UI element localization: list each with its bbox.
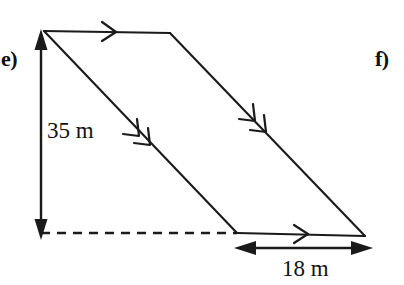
- parallelogram-bottom-edge: [237, 233, 365, 236]
- problem-label-f: f): [375, 48, 389, 70]
- base-dimension-arrow: [234, 241, 373, 255]
- parallelogram-top-edge: [44, 31, 170, 33]
- parallelogram-right-slant-edge: [170, 33, 365, 236]
- base-arrowhead-right-icon: [351, 241, 373, 255]
- figure-page: e) f) 35 m 18 m: [0, 0, 404, 285]
- base-arrowhead-left-icon: [234, 241, 256, 255]
- height-dimension-label: 35 m: [47, 119, 94, 142]
- height-arrowhead-down-icon: [35, 219, 48, 240]
- base-dimension-label: 18 m: [282, 257, 329, 280]
- left-slant-edge-double-chevron-icon: [123, 119, 150, 145]
- problem-label-e: e): [1, 48, 17, 70]
- height-dimension-arrow: [35, 29, 48, 240]
